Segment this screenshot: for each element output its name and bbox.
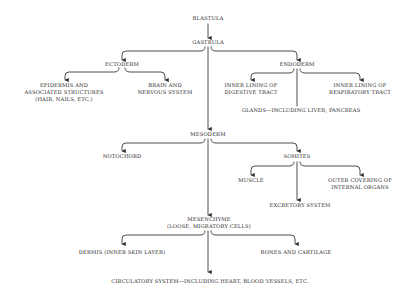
node-brain-nervous-system: BRAIN AND NERVOUS SYSTEM	[138, 82, 193, 96]
node-mesoderm: MESODERM	[190, 131, 225, 138]
node-bones-cartilage: BONES AND CARTILAGE	[261, 249, 332, 256]
node-notochord: NOTOCHORD	[103, 153, 142, 160]
node-excretory-system: EXCRETORY SYSTEM	[269, 202, 330, 209]
node-mesenchyme-line1: MESENCHYME	[167, 216, 251, 223]
node-mesenchyme: MESENCHYME (LOOSE, MIGRATORY CELLS)	[167, 216, 251, 230]
node-brain-line2: NERVOUS SYSTEM	[138, 89, 193, 96]
edge-mesoderm-somites	[211, 139, 297, 151]
node-epidermis-line1: EPIDERMIS AND	[24, 82, 103, 89]
node-digestive-line2: DIGESTIVE TRACT	[224, 89, 277, 96]
node-ectoderm: ECTODERM	[105, 61, 139, 68]
node-endoderm: ENDODERM	[279, 61, 314, 68]
edge-gastrula-endoderm	[211, 47, 297, 60]
node-muscle: MUSCLE	[238, 177, 263, 184]
edge-endoderm-digestive	[251, 69, 294, 80]
edge-mesoderm-notochord	[122, 139, 205, 151]
node-respiratory-line2: RESPIRATORY TRACT	[329, 89, 391, 96]
node-brain-line1: BRAIN AND	[138, 82, 193, 89]
node-outer-covering-line1: OUTER COVERING OF	[328, 177, 392, 184]
edge-ectoderm-brain	[125, 68, 165, 80]
node-respiratory-lining: INNER LINING OF RESPIRATORY TRACT	[329, 82, 391, 96]
node-outer-covering-line2: INTERNAL ORGANS	[328, 184, 392, 191]
node-mesenchyme-line2: (LOOSE, MIGRATORY CELLS)	[167, 223, 251, 230]
edge-ectoderm-epidermis	[65, 68, 119, 80]
edge-endoderm-respiratory	[300, 69, 360, 80]
node-dermis: DERMIS (INNER SKIN LAYER)	[79, 249, 165, 256]
edge-mesenchyme-bones	[211, 231, 295, 244]
node-somites: SOMITES	[283, 153, 310, 160]
node-gastrula: GASTRULA	[192, 39, 224, 46]
node-digestive-lining: INNER LINING OF DIGESTIVE TRACT	[224, 82, 277, 96]
node-respiratory-line1: INNER LINING OF	[329, 82, 391, 89]
node-epidermis-line3: (HAIR, NAILS, ETC.)	[24, 96, 103, 103]
node-glands: GLANDS—INCLUDING LIVER, PANCREAS	[242, 107, 361, 114]
node-outer-covering: OUTER COVERING OF INTERNAL ORGANS	[328, 177, 392, 191]
edge-somites-muscle	[251, 162, 294, 175]
edge-mesenchyme-dermis	[122, 231, 205, 244]
germ-layer-flowchart: BLASTULA GASTRULA ECTODERM ENDODERM EPID…	[0, 0, 417, 294]
edge-gastrula-ectoderm	[122, 47, 205, 60]
node-digestive-line1: INNER LINING OF	[224, 82, 277, 89]
node-epidermis-line2: ASSOCIATED STRUCTURES	[24, 89, 103, 96]
edge-somites-outer-covering	[300, 162, 360, 175]
node-circulatory-system: CIRCULATORY SYSTEM—INCLUDING HEART, BLOO…	[111, 278, 308, 285]
node-epidermis: EPIDERMIS AND ASSOCIATED STRUCTURES (HAI…	[24, 82, 103, 103]
node-blastula: BLASTULA	[193, 15, 224, 22]
